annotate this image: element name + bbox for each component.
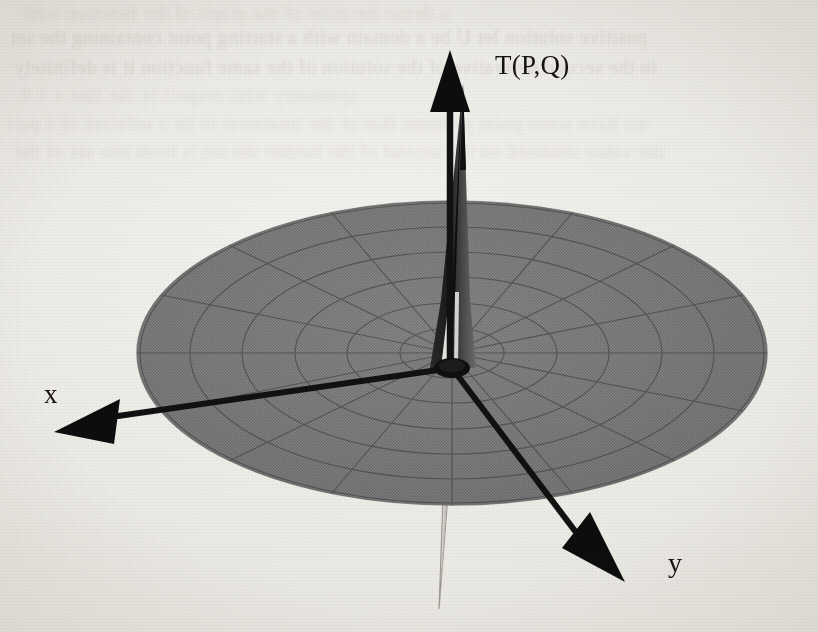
y-axis-label: y [668,549,682,577]
vertical-axis-arrowhead [430,50,470,112]
origin-marker [434,358,470,378]
figure-root: a dense iteration of the graph of the fu… [0,0,818,632]
x-axis-arrowhead [54,399,120,444]
x-axis-label: x [44,381,58,408]
surface-plot-svg [0,0,818,632]
vertical-axis-label: T(P,Q) [495,52,570,79]
